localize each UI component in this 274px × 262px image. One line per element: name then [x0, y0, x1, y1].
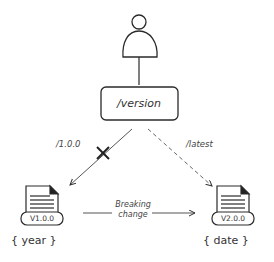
edge-label-1-0-0: /1.0.0	[56, 139, 81, 149]
edge-label-latest: /latest	[186, 139, 213, 149]
breaking-label-line2: change	[112, 210, 154, 220]
route-label: /version	[100, 87, 178, 120]
breaking-label-line1: Breaking	[112, 200, 154, 210]
user-icon	[123, 15, 157, 57]
edge-1-0-0-arrow	[70, 129, 132, 185]
param-label-year: { year }	[11, 234, 57, 247]
version-label-v1: V1.0.0	[20, 214, 64, 223]
blocked-x-icon	[97, 147, 109, 159]
param-label-date: { date }	[203, 234, 249, 247]
version-label-v2: V2.0.0	[211, 214, 255, 223]
breaking-change-label: Breaking change	[112, 200, 154, 220]
edge-latest-arrow	[148, 129, 212, 186]
